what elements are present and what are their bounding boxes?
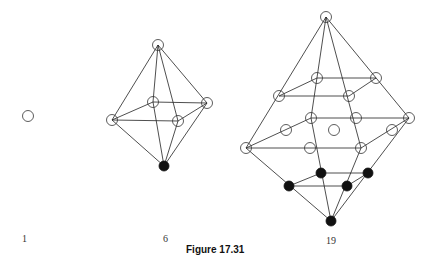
bond-edge — [112, 102, 153, 120]
filled-atom-node — [284, 181, 294, 191]
bond-edge — [164, 121, 178, 166]
figure-caption: Figure 17.31 — [186, 244, 244, 255]
filled-atom-node — [342, 181, 352, 191]
cluster-label-19: 19 — [326, 235, 336, 246]
bond-edge — [153, 45, 158, 102]
bond-edge — [279, 78, 317, 96]
bond-edge — [153, 102, 164, 166]
filled-atom-node — [326, 216, 336, 226]
cluster-figure — [0, 0, 434, 267]
bond-edge — [349, 78, 376, 96]
cluster-diagram-svg — [0, 0, 434, 267]
open-atom-node — [23, 111, 34, 122]
filled-atom-node — [159, 161, 169, 171]
open-atom-node — [387, 125, 398, 136]
bond-edge — [112, 120, 164, 166]
bond-edge — [153, 102, 207, 103]
bond-edge — [164, 103, 207, 166]
bond-edge — [112, 120, 178, 121]
bond-edge — [112, 45, 158, 120]
filled-atom-node — [363, 168, 373, 178]
bond-edge — [246, 118, 311, 148]
cluster-1 — [23, 111, 34, 122]
bond-edge — [326, 17, 361, 148]
bond-edge — [326, 17, 409, 118]
cluster-label-6: 6 — [163, 233, 168, 244]
cluster-6 — [107, 40, 213, 172]
filled-atom-node — [316, 168, 326, 178]
bond-edge — [361, 118, 409, 148]
open-atom-node — [329, 125, 340, 136]
cluster-label-1: 1 — [22, 233, 27, 244]
cluster-19 — [241, 12, 415, 227]
bond-edge — [311, 17, 326, 118]
open-atom-node — [281, 125, 292, 136]
